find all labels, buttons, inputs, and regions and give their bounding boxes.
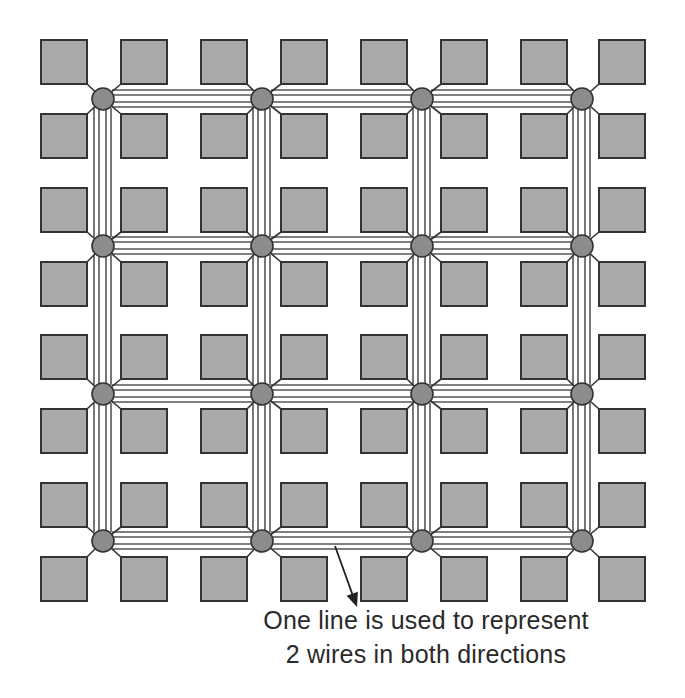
logic-block bbox=[121, 40, 167, 84]
logic-block bbox=[521, 40, 567, 84]
switch-node bbox=[411, 530, 433, 552]
logic-block bbox=[121, 335, 167, 379]
logic-block bbox=[201, 483, 247, 527]
vertical-channel bbox=[413, 108, 430, 237]
switch-node bbox=[571, 235, 593, 257]
logic-block bbox=[361, 40, 407, 84]
horizontal-channel bbox=[112, 237, 253, 254]
logic-block bbox=[441, 483, 487, 527]
horizontal-channel bbox=[431, 90, 573, 107]
caption-line-1: One line is used to represent bbox=[196, 603, 656, 637]
switch-node bbox=[571, 383, 593, 405]
switch-node bbox=[411, 383, 433, 405]
horizontal-channel bbox=[112, 532, 253, 549]
vertical-channel bbox=[94, 403, 111, 532]
logic-block bbox=[121, 409, 167, 453]
switch-node bbox=[251, 88, 273, 110]
logic-block bbox=[599, 409, 645, 453]
logic-block bbox=[41, 262, 87, 306]
logic-block bbox=[521, 335, 567, 379]
logic-block bbox=[441, 262, 487, 306]
logic-block bbox=[41, 114, 87, 158]
logic-block bbox=[441, 188, 487, 232]
logic-block bbox=[361, 188, 407, 232]
horizontal-channel bbox=[112, 385, 253, 402]
vertical-channel bbox=[413, 255, 430, 385]
logic-block bbox=[121, 557, 167, 601]
logic-block bbox=[281, 409, 327, 453]
logic-block bbox=[41, 557, 87, 601]
logic-block bbox=[521, 114, 567, 158]
switch-node bbox=[251, 530, 273, 552]
logic-block bbox=[441, 114, 487, 158]
logic-block bbox=[41, 40, 87, 84]
horizontal-channel bbox=[271, 532, 413, 549]
logic-block bbox=[41, 335, 87, 379]
logic-block bbox=[361, 409, 407, 453]
logic-block bbox=[599, 483, 645, 527]
logic-block bbox=[521, 409, 567, 453]
routing-grid-diagram bbox=[0, 0, 685, 698]
vertical-channel bbox=[94, 255, 111, 385]
logic-block bbox=[281, 335, 327, 379]
horizontal-channel bbox=[271, 237, 413, 254]
horizontal-channel bbox=[271, 90, 413, 107]
logic-block bbox=[201, 262, 247, 306]
logic-block bbox=[441, 40, 487, 84]
switch-node bbox=[251, 383, 273, 405]
logic-block bbox=[121, 188, 167, 232]
horizontal-channel bbox=[271, 385, 413, 402]
logic-block bbox=[599, 114, 645, 158]
logic-block bbox=[281, 557, 327, 601]
vertical-channel bbox=[94, 108, 111, 237]
logic-block bbox=[121, 114, 167, 158]
logic-block bbox=[599, 557, 645, 601]
logic-block bbox=[281, 114, 327, 158]
logic-block bbox=[361, 262, 407, 306]
horizontal-channel bbox=[431, 532, 573, 549]
switch-node bbox=[571, 530, 593, 552]
logic-block bbox=[361, 114, 407, 158]
logic-block bbox=[201, 114, 247, 158]
logic-block bbox=[281, 262, 327, 306]
logic-block bbox=[41, 409, 87, 453]
logic-block bbox=[521, 262, 567, 306]
vertical-channel bbox=[413, 403, 430, 532]
logic-block bbox=[599, 188, 645, 232]
logic-block bbox=[281, 40, 327, 84]
logic-block bbox=[441, 557, 487, 601]
logic-block bbox=[201, 409, 247, 453]
logic-block bbox=[361, 557, 407, 601]
horizontal-channel bbox=[431, 237, 573, 254]
logic-block bbox=[41, 483, 87, 527]
switch-node bbox=[571, 88, 593, 110]
switch-node bbox=[411, 235, 433, 257]
horizontal-channel bbox=[112, 90, 253, 107]
logic-block bbox=[201, 335, 247, 379]
logic-block bbox=[201, 557, 247, 601]
vertical-channel bbox=[253, 108, 270, 237]
logic-block bbox=[599, 335, 645, 379]
routing-channels bbox=[94, 90, 590, 549]
arrow-shaft bbox=[335, 546, 352, 594]
logic-block bbox=[441, 335, 487, 379]
logic-block bbox=[599, 40, 645, 84]
switch-node bbox=[411, 88, 433, 110]
vertical-channel bbox=[253, 403, 270, 532]
logic-block bbox=[521, 483, 567, 527]
logic-block bbox=[201, 40, 247, 84]
logic-block bbox=[599, 262, 645, 306]
logic-block bbox=[361, 483, 407, 527]
logic-block bbox=[521, 188, 567, 232]
logic-block bbox=[121, 483, 167, 527]
logic-block bbox=[521, 557, 567, 601]
switch-node bbox=[92, 88, 114, 110]
logic-block bbox=[441, 409, 487, 453]
logic-block bbox=[121, 262, 167, 306]
logic-blocks bbox=[41, 40, 645, 601]
vertical-channel bbox=[573, 255, 590, 385]
vertical-channel bbox=[573, 108, 590, 237]
vertical-channel bbox=[253, 255, 270, 385]
switch-node bbox=[92, 383, 114, 405]
horizontal-channel bbox=[431, 385, 573, 402]
